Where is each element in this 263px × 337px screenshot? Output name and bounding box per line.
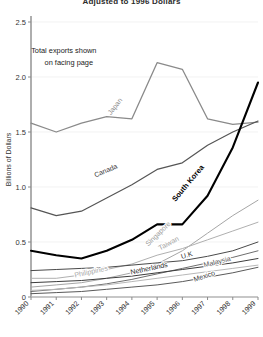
series-line-japan [31, 63, 258, 132]
series-label-south-korea: South Korea [170, 162, 206, 203]
chart-note-line-2: on facing page [45, 58, 94, 67]
series-label-malaysia: Malaysia [203, 255, 232, 269]
series-line-south-korea [31, 83, 258, 259]
series-line-canada [31, 121, 258, 216]
series-label-mexico: Mexico [193, 269, 216, 283]
x-tick-label-1991: 1991 [38, 299, 56, 317]
x-tick-label-1990: 1990 [13, 299, 31, 317]
series-label-taiwan: Taiwan [157, 235, 180, 251]
y-tick-label-2.5: 2.5 [16, 18, 26, 27]
x-tick-label-1995: 1995 [139, 299, 157, 317]
x-tick-label-1992: 1992 [63, 299, 81, 317]
x-tick-label-1998: 1998 [215, 299, 233, 317]
chart-note-line-1: Total exports shown [31, 46, 96, 55]
y-tick-label-1.0: 1.0 [16, 183, 26, 192]
y-tick-label-0.5: 0.5 [16, 238, 26, 247]
x-tick-label-1996: 1996 [164, 299, 182, 317]
x-tick-label-1994: 1994 [114, 299, 132, 317]
series-label-canada: Canada [93, 162, 118, 178]
y-tick-label-1.5: 1.5 [16, 128, 26, 137]
chart-plot-area: 00.51.01.52.02.5Billions of Dollars19901… [0, 0, 263, 337]
x-tick-label-1999: 1999 [240, 299, 258, 317]
y-axis-title: Billions of Dollars [5, 132, 12, 186]
series-label-philippines: Philippines [74, 264, 109, 279]
export-line-chart: Adjusted to 1996 Dollars 00.51.01.52.02.… [0, 0, 263, 337]
x-tick-label-1993: 1993 [88, 299, 106, 317]
y-tick-label-2.0: 2.0 [16, 73, 26, 82]
series-label-japan: Japan [106, 97, 124, 117]
x-tick-label-1997: 1997 [189, 299, 207, 317]
